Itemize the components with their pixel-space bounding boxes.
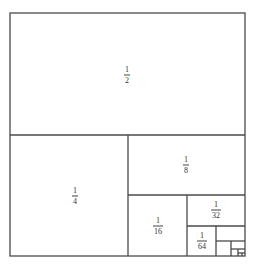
label-sixteenth: 1 16 (153, 217, 163, 236)
region-borders (10, 13, 245, 256)
label-eighth-numerator: 1 (183, 156, 189, 166)
label-quarter: 1 4 (72, 187, 78, 206)
label-thirty-second-denominator: 32 (211, 211, 221, 220)
label-thirty-second: 1 32 (211, 201, 221, 220)
label-sixty-fourth: 1 64 (197, 232, 207, 251)
label-eighth: 1 8 (183, 156, 189, 175)
label-sixty-fourth-denominator: 64 (197, 242, 207, 251)
label-sixteenth-denominator: 16 (153, 227, 163, 236)
label-eighth-denominator: 8 (183, 166, 189, 175)
label-thirty-second-numerator: 1 (211, 201, 221, 211)
geometric-series-diagram (0, 0, 255, 267)
label-half-denominator: 2 (124, 76, 130, 85)
label-sixty-fourth-numerator: 1 (197, 232, 207, 242)
label-quarter-denominator: 4 (72, 197, 78, 206)
label-half-numerator: 1 (124, 66, 130, 76)
label-half: 1 2 (124, 66, 130, 85)
label-quarter-numerator: 1 (72, 187, 78, 197)
label-sixteenth-numerator: 1 (153, 217, 163, 227)
